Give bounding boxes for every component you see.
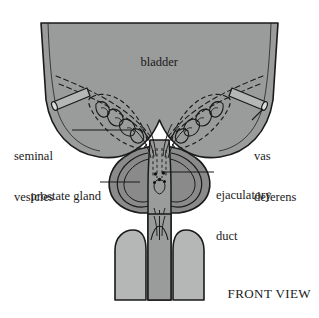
label-seminal-vesicles-line1: seminal [14,150,54,164]
label-ejaculatory-duct-line1: ejaculatory [216,189,272,203]
label-prostate-gland: prostate gland [18,176,101,217]
label-ejaculatory-duct-line2: duct [216,230,272,244]
ejaculatory-duct-dot [153,181,156,184]
label-bladder: bladder [128,42,178,83]
label-ejaculatory-duct: ejaculatory duct [216,162,272,270]
label-prostate-gland-text: prostate gland [31,189,101,203]
corpus-cavernosum-left [115,230,146,300]
ejaculatory-duct-dot [158,178,161,181]
caption-front-view: FRONT VIEW [213,273,311,315]
label-bladder-text: bladder [141,55,178,69]
ejaculatory-duct-dot [163,180,166,183]
caption-front-view-text: FRONT VIEW [228,286,311,301]
penile-shaft-group [115,214,204,300]
ejaculatory-duct-dot [154,172,157,175]
anatomy-diagram: bladder seminal vesicles vas deferens pr… [0,0,319,318]
corpus-cavernosum-right [173,230,204,300]
